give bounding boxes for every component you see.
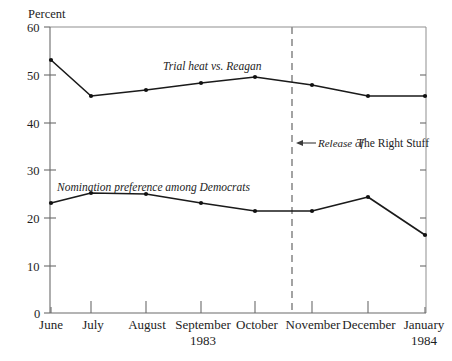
x-tick-label-january: January [404, 317, 445, 332]
x-tick-label-august: August [128, 317, 166, 332]
annotation-arrow-icon [296, 140, 316, 146]
series-label-trial-heat: Trial heat vs. Reagan [163, 60, 262, 73]
x-tick-label-july: July [82, 317, 104, 332]
y-tick-label-50: 50 [27, 69, 40, 83]
chart-container: Percent 60 50 40 30 20 10 0 [0, 0, 452, 361]
x-tick-label-december: December [342, 317, 396, 332]
y-tick-label-10: 10 [27, 260, 40, 274]
y-axis-title: Percent [28, 7, 66, 21]
x-tick-label-june: June [39, 317, 63, 332]
series-line-nomination-preference [51, 193, 425, 235]
year-label-1984: 1984 [411, 333, 438, 348]
x-tick-label-september: September [175, 317, 231, 332]
y-tick-marks-right [420, 75, 426, 266]
series-label-nomination-preference: Nomination preference among Democrats [56, 181, 251, 194]
x-tick-marks [51, 301, 425, 313]
y-tick-label-20: 20 [27, 212, 40, 226]
y-tick-label-30: 30 [27, 164, 40, 178]
year-label-1983: 1983 [190, 333, 216, 348]
x-tick-label-october: October [236, 317, 279, 332]
y-tick-label-60: 60 [27, 21, 40, 35]
annotation-film-title: The Right Stuff [357, 137, 429, 150]
line-chart-svg: Percent 60 50 40 30 20 10 0 [0, 0, 452, 361]
y-tick-label-40: 40 [27, 117, 40, 131]
x-tick-label-november: November [286, 317, 342, 332]
